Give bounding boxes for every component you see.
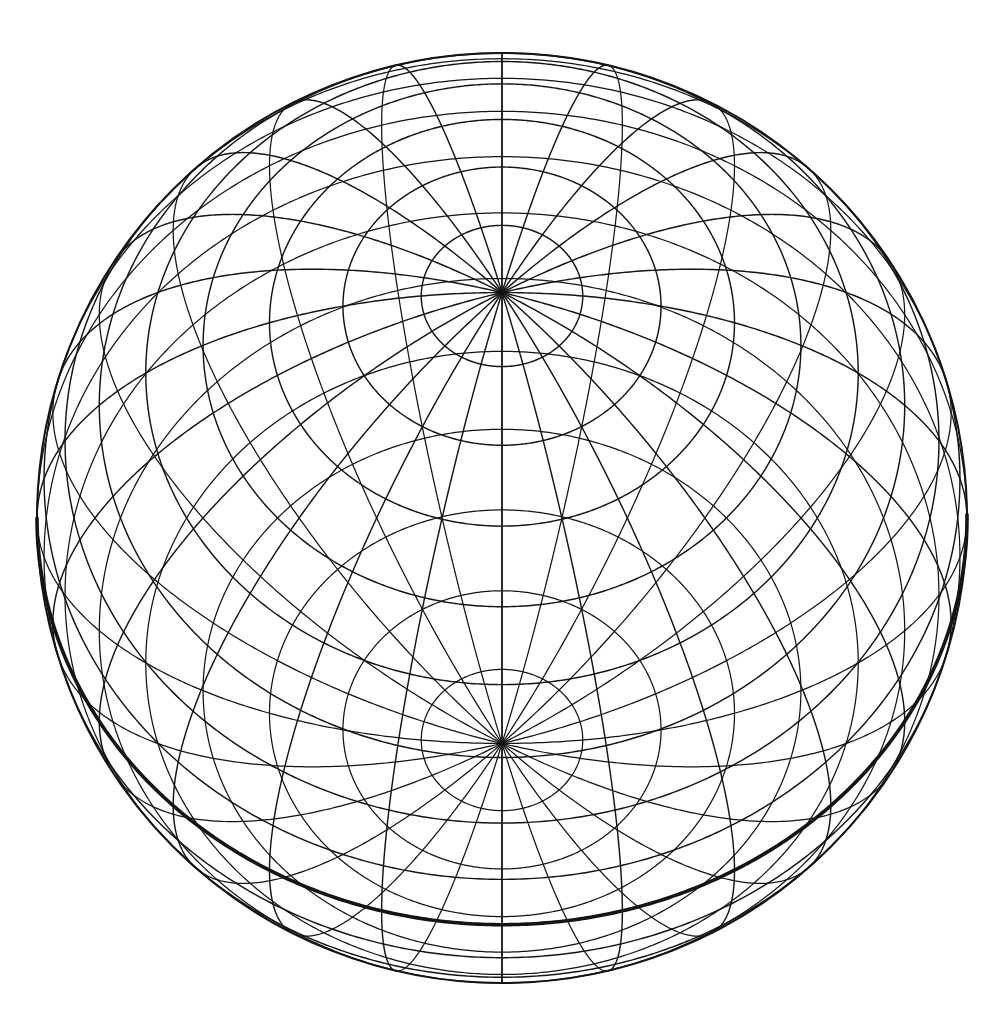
globe-figure [0, 0, 1004, 1020]
globe-graticule-svg [0, 0, 1004, 1020]
